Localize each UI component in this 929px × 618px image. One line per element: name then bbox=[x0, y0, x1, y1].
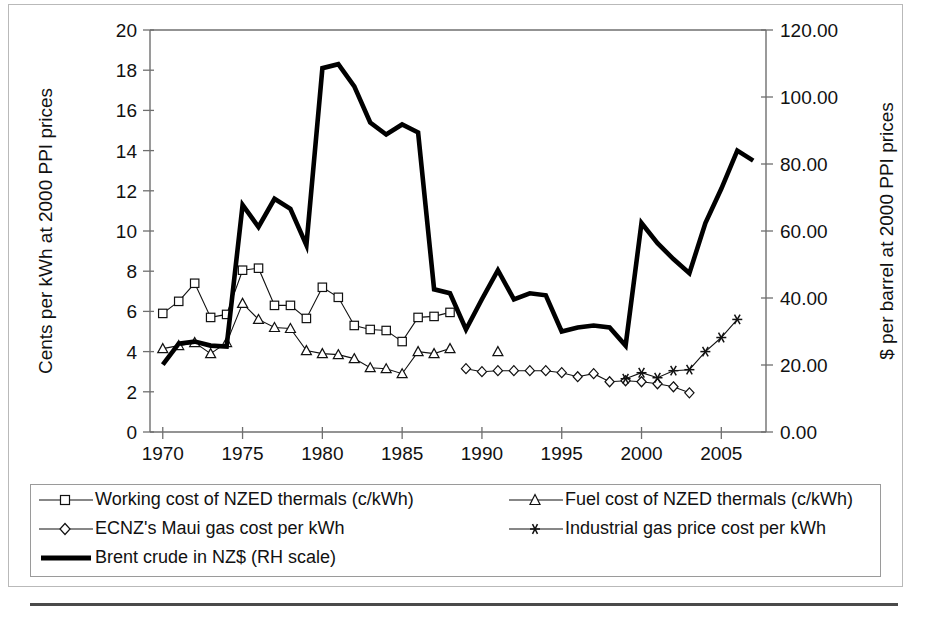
asterisk-marker-icon bbox=[507, 520, 565, 538]
legend-label: ECNZ's Maui gas cost per kWh bbox=[95, 518, 345, 539]
svg-text:4: 4 bbox=[126, 342, 137, 363]
legend-row-3: Brent crude in NZ$ (RH scale) bbox=[31, 543, 880, 572]
svg-text:14: 14 bbox=[116, 141, 138, 162]
axis-labels-group: 024681012141618200.0020.0040.0060.0080.0… bbox=[35, 20, 897, 464]
svg-text:1975: 1975 bbox=[221, 443, 263, 464]
legend-label: Brent crude in NZ$ (RH scale) bbox=[95, 547, 336, 568]
triangle-marker-icon bbox=[507, 491, 565, 509]
legend-item-maui-gas[interactable]: ECNZ's Maui gas cost per kWh bbox=[37, 518, 507, 539]
svg-text:0: 0 bbox=[126, 422, 137, 443]
svg-text:100.00: 100.00 bbox=[780, 87, 838, 108]
svg-text:12: 12 bbox=[116, 181, 137, 202]
svg-text:0.00: 0.00 bbox=[780, 422, 817, 443]
svg-text:60.00: 60.00 bbox=[780, 221, 828, 242]
series-line bbox=[163, 64, 753, 365]
legend-item-brent-crude[interactable]: Brent crude in NZ$ (RH scale) bbox=[37, 547, 507, 568]
legend-item-industrial-gas[interactable]: Industrial gas price cost per kWh bbox=[507, 518, 877, 539]
svg-text:1970: 1970 bbox=[142, 443, 184, 464]
thick-line-marker-icon bbox=[37, 549, 95, 567]
legend-label: Working cost of NZED thermals (c/kWh) bbox=[95, 489, 414, 510]
legend-item-fuel-cost[interactable]: Fuel cost of NZED thermals (c/kWh) bbox=[507, 489, 877, 510]
svg-text:1990: 1990 bbox=[461, 443, 503, 464]
svg-text:2: 2 bbox=[126, 382, 137, 403]
svg-text:1985: 1985 bbox=[381, 443, 423, 464]
series-group bbox=[158, 64, 753, 398]
svg-text:8: 8 bbox=[126, 261, 137, 282]
legend-label: Fuel cost of NZED thermals (c/kWh) bbox=[565, 489, 853, 510]
svg-text:18: 18 bbox=[116, 60, 137, 81]
svg-text:2000: 2000 bbox=[620, 443, 662, 464]
diamond-marker-icon bbox=[37, 520, 95, 538]
svg-text:1980: 1980 bbox=[301, 443, 343, 464]
svg-text:120.00: 120.00 bbox=[780, 20, 838, 41]
legend-row-2: ECNZ's Maui gas cost per kWh Industrial … bbox=[31, 514, 880, 543]
square-marker-icon bbox=[37, 491, 95, 509]
svg-text:2005: 2005 bbox=[700, 443, 742, 464]
legend-row-1: Working cost of NZED thermals (c/kWh) Fu… bbox=[31, 485, 880, 514]
svg-text:80.00: 80.00 bbox=[780, 154, 828, 175]
svg-text:40.00: 40.00 bbox=[780, 288, 828, 309]
footer-rule bbox=[30, 603, 898, 606]
chart-legend: Working cost of NZED thermals (c/kWh) Fu… bbox=[30, 484, 881, 577]
y2-axis-title: $ per barrel at 2000 PPI prices bbox=[876, 102, 897, 360]
svg-text:6: 6 bbox=[126, 301, 137, 322]
figure-root: 024681012141618200.0020.0040.0060.0080.0… bbox=[0, 0, 929, 618]
svg-text:1995: 1995 bbox=[541, 443, 583, 464]
svg-text:16: 16 bbox=[116, 100, 137, 121]
legend-item-working-cost[interactable]: Working cost of NZED thermals (c/kWh) bbox=[37, 489, 507, 510]
svg-text:10: 10 bbox=[116, 221, 137, 242]
legend-label: Industrial gas price cost per kWh bbox=[565, 518, 826, 539]
svg-text:20.00: 20.00 bbox=[780, 355, 828, 376]
chart-canvas: 024681012141618200.0020.0040.0060.0080.0… bbox=[0, 0, 929, 470]
series-line bbox=[163, 268, 450, 341]
y-axis-title: Cents per kWh at 2000 PPI prices bbox=[35, 88, 56, 374]
svg-text:20: 20 bbox=[116, 20, 137, 41]
chart-svg: 024681012141618200.0020.0040.0060.0080.0… bbox=[0, 0, 929, 470]
